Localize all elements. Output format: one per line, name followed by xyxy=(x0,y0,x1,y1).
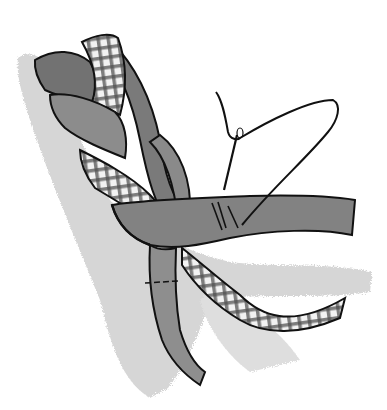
illustration-canvas: Braided fabric strips with needle and th… xyxy=(0,0,387,410)
solid-strip-band xyxy=(112,196,355,247)
braid-illustration xyxy=(0,0,387,410)
